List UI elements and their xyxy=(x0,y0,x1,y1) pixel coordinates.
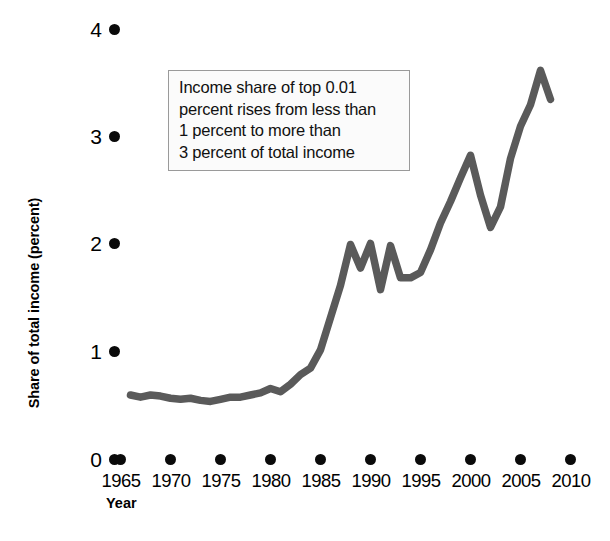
x-tick-dot-1990 xyxy=(365,454,376,465)
y-tick-dot-4 xyxy=(109,24,120,35)
x-tick-dot-2000 xyxy=(465,454,476,465)
x-tick-label-1980: 1980 xyxy=(244,470,298,492)
x-axis-title: Year xyxy=(106,495,137,511)
y-tick-label-2: 2 xyxy=(76,232,102,256)
x-tick-dot-1985 xyxy=(315,454,326,465)
y-tick-dot-2 xyxy=(109,238,120,249)
x-tick-dot-1965 xyxy=(115,454,126,465)
chart-figure: Share of total income (percent) 4 3 2 1 … xyxy=(0,0,610,541)
y-tick-label-1: 1 xyxy=(76,340,102,364)
x-tick-dot-1995 xyxy=(415,454,426,465)
x-tick-label-1965: 1965 xyxy=(94,470,148,492)
x-tick-dot-1970 xyxy=(165,454,176,465)
annotation-callout: Income share of top 0.01 percent rises f… xyxy=(168,70,410,171)
y-tick-dot-3 xyxy=(109,131,120,142)
x-tick-label-1995: 1995 xyxy=(394,470,448,492)
annotation-line-2: percent rises from less than xyxy=(179,99,401,121)
annotation-line-4: 3 percent of total income xyxy=(179,142,401,164)
x-tick-label-2005: 2005 xyxy=(494,470,548,492)
x-tick-label-1975: 1975 xyxy=(194,470,248,492)
x-tick-dot-1975 xyxy=(215,454,226,465)
annotation-line-3: 1 percent to more than xyxy=(179,120,401,142)
y-tick-label-3: 3 xyxy=(76,125,102,149)
y-tick-label-0: 0 xyxy=(76,448,102,472)
x-tick-label-2000: 2000 xyxy=(444,470,498,492)
annotation-line-1: Income share of top 0.01 xyxy=(179,77,401,99)
x-tick-label-1990: 1990 xyxy=(344,470,398,492)
y-tick-label-4: 4 xyxy=(76,18,102,42)
x-tick-label-2010: 2010 xyxy=(544,470,598,492)
x-tick-dot-1980 xyxy=(265,454,276,465)
x-tick-dot-2005 xyxy=(515,454,526,465)
x-tick-label-1970: 1970 xyxy=(144,470,198,492)
x-tick-label-1985: 1985 xyxy=(294,470,348,492)
y-axis-title: Share of total income (percent) xyxy=(26,153,42,453)
y-tick-dot-1 xyxy=(109,346,120,357)
x-tick-dot-2010 xyxy=(565,454,576,465)
